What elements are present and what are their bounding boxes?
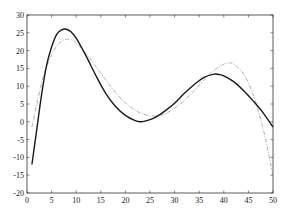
y-axis-tick-labels: -20-15-10-5051015202530	[13, 11, 24, 198]
y-tick-label: 25	[16, 29, 24, 38]
y-tick-label: 0	[20, 118, 24, 127]
x-tick-label: 25	[146, 196, 154, 205]
axes-box	[27, 15, 273, 193]
x-tick-label: 30	[171, 196, 179, 205]
dark-curve	[32, 29, 273, 164]
plot-series	[32, 29, 273, 175]
y-tick-label: 5	[20, 100, 24, 109]
x-tick-label: 5	[50, 196, 54, 205]
light-dashdot-curve	[32, 39, 273, 175]
x-tick-label: 45	[244, 196, 252, 205]
x-tick-label: 35	[195, 196, 203, 205]
y-tick-label: -5	[17, 136, 24, 145]
x-tick-label: 40	[220, 196, 228, 205]
line-chart: 05101520253035404550 -20-15-10-505101520…	[0, 0, 288, 220]
y-tick-label: -10	[13, 153, 24, 162]
axis-ticks	[27, 15, 273, 193]
x-axis-tick-labels: 05101520253035404550	[25, 196, 277, 205]
y-tick-label: 20	[16, 47, 24, 56]
x-tick-label: 20	[121, 196, 129, 205]
x-tick-label: 0	[25, 196, 29, 205]
y-tick-label: 15	[16, 64, 24, 73]
x-tick-label: 50	[269, 196, 277, 205]
y-tick-label: 10	[16, 82, 24, 91]
x-tick-label: 10	[72, 196, 80, 205]
y-tick-label: -15	[13, 171, 24, 180]
x-tick-label: 15	[97, 196, 105, 205]
y-tick-label: 30	[16, 11, 24, 20]
y-tick-label: -20	[13, 189, 24, 198]
